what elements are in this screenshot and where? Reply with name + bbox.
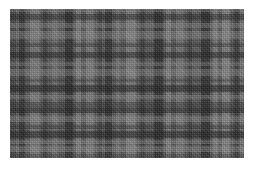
page-background: Grayscale plaid tartan fabric texture (0, 0, 254, 169)
twill-texture (10, 9, 244, 158)
plaid-fabric-image (10, 9, 244, 158)
